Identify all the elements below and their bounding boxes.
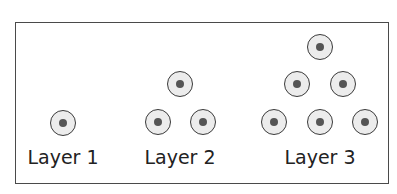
cell-icon xyxy=(167,71,193,97)
cell-icon xyxy=(284,71,310,97)
cell-icon xyxy=(50,110,76,136)
cell-icon xyxy=(145,109,171,135)
layer-3-label: Layer 3 xyxy=(284,146,355,168)
cell-icon xyxy=(330,71,356,97)
layer-2-label: Layer 2 xyxy=(144,146,215,168)
cell-icon xyxy=(190,109,216,135)
layer-1-label: Layer 1 xyxy=(27,146,98,168)
cell-icon xyxy=(261,109,287,135)
cell-icon xyxy=(352,109,378,135)
cell-icon xyxy=(307,34,333,60)
cell-icon xyxy=(307,109,333,135)
